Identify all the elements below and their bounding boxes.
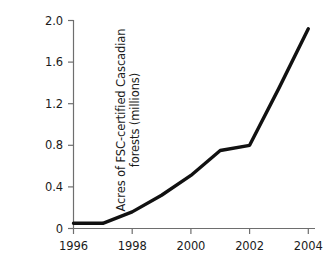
x-axis-ticks <box>74 229 309 235</box>
x-tick-label-2004: 2004 <box>294 239 323 253</box>
y-tick-label-0-8: 0.8 <box>34 138 63 152</box>
y-tick-label-0-4: 0.4 <box>34 180 63 194</box>
y-axis-ticks <box>68 21 74 229</box>
line-chart: 2.0 1.6 1.2 0.8 0.4 0 1996 1998 2000 200… <box>0 0 333 269</box>
x-tick-label-1996: 1996 <box>59 239 88 253</box>
y-tick-label-0: 0 <box>34 222 63 236</box>
x-tick-label-2000: 2000 <box>176 239 205 253</box>
y-tick-label-2-0: 2.0 <box>34 14 63 28</box>
y-tick-label-1-2: 1.2 <box>34 97 63 111</box>
x-tick-label-1998: 1998 <box>118 239 147 253</box>
y-tick-label-1-6: 1.6 <box>34 55 63 69</box>
data-series-line <box>74 29 309 223</box>
x-tick-label-2002: 2002 <box>235 239 264 253</box>
